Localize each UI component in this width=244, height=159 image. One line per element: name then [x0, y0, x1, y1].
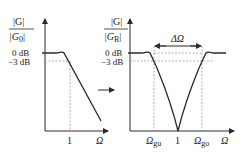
left-tick-minus3db: −3 dB: [8, 57, 30, 67]
xtick-omega-gu: Ω: [146, 135, 153, 146]
lowpass-to-bandstop-diagram: |G| |G0| 0 dB −3 dB 1 Ω |G| |GR| 0 dB −3…: [0, 0, 244, 159]
svg-text:|G0|: |G0|: [9, 31, 25, 44]
bandwidth-label: ΔΩ: [170, 33, 184, 44]
left-xlabel-omega: Ω: [96, 135, 103, 146]
right-ylabel-numerator: |G|: [111, 16, 122, 27]
xtick-omega-go: Ω: [194, 135, 201, 146]
right-ylabel-denominator: |G: [104, 31, 114, 42]
lowpass-curve: [42, 52, 101, 121]
left-plot: |G| |G0| 0 dB −3 dB 1 Ω: [8, 16, 108, 146]
right-xlabel-omega: Ω: [221, 135, 228, 146]
svg-text:Ωgo: Ωgo: [194, 135, 209, 148]
left-ylabel-numerator: |G|: [13, 16, 24, 27]
svg-text:Ωgu: Ωgu: [146, 135, 161, 148]
right-tick-minus3db: −3 dB: [101, 57, 123, 67]
bandstop-curve: [128, 52, 226, 131]
right-xtick-1: 1: [175, 135, 180, 146]
svg-text:|GR|: |GR|: [104, 31, 121, 44]
left-xtick-1: 1: [67, 135, 72, 146]
right-plot: |G| |GR| 0 dB −3 dB ΔΩ Ωgu 1 Ωgo Ω: [101, 16, 234, 148]
left-ylabel-denominator: |G: [9, 31, 19, 42]
